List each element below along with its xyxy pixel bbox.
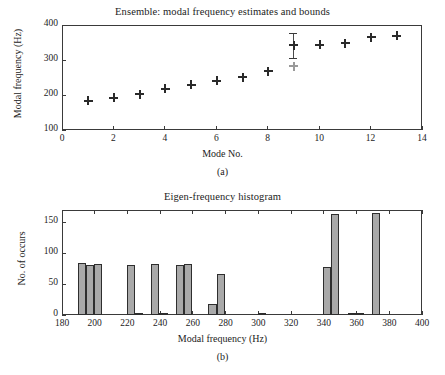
y-tick-label: 50 bbox=[22, 277, 58, 287]
x-tick-mark-top bbox=[225, 210, 226, 214]
x-tick-mark-top bbox=[94, 210, 95, 214]
x-tick-mark bbox=[389, 311, 390, 315]
x-tick-mark bbox=[62, 126, 63, 130]
x-tick-label: 320 bbox=[277, 318, 305, 328]
x-tick-mark bbox=[370, 126, 371, 130]
data-point-marker bbox=[84, 96, 93, 105]
histogram-bar bbox=[176, 265, 184, 315]
x-tick-label: 260 bbox=[179, 318, 207, 328]
x-tick-mark bbox=[113, 126, 114, 130]
x-tick-label: 240 bbox=[146, 318, 174, 328]
y-tick-label: 200 bbox=[18, 88, 58, 98]
marker-horizontal bbox=[315, 44, 324, 46]
y-tick-label: 100 bbox=[18, 123, 58, 133]
histogram-bar bbox=[151, 264, 159, 315]
y-tick-label: 300 bbox=[18, 53, 58, 63]
data-point-marker bbox=[392, 31, 401, 40]
x-tick-label: 6 bbox=[202, 133, 230, 143]
x-tick-mark bbox=[267, 126, 268, 130]
y-tick-mark bbox=[62, 253, 66, 254]
panel-a-ylabel: Modal frequency (Hz) bbox=[12, 19, 23, 129]
panel-b-xlabel: Modal frequency (Hz) bbox=[0, 333, 445, 344]
panel-a-xlabel: Mode No. bbox=[0, 148, 445, 159]
data-point-marker bbox=[367, 33, 376, 42]
x-tick-label: 4 bbox=[151, 133, 179, 143]
data-point-marker bbox=[161, 84, 170, 93]
x-tick-mark bbox=[164, 126, 165, 130]
histogram-bar bbox=[348, 313, 356, 315]
marker-horizontal bbox=[161, 88, 170, 90]
x-tick-mark-top bbox=[258, 210, 259, 214]
marker-horizontal bbox=[212, 80, 221, 82]
marker-horizontal bbox=[84, 100, 93, 102]
data-point-marker bbox=[187, 80, 196, 89]
x-tick-mark-top bbox=[127, 210, 128, 214]
y-tick-mark bbox=[62, 25, 66, 26]
x-tick-mark-top bbox=[160, 210, 161, 214]
x-tick-mark bbox=[291, 311, 292, 315]
x-tick-label: 180 bbox=[48, 318, 76, 328]
y-tick-label: 0 bbox=[22, 308, 58, 318]
x-tick-label: 400 bbox=[408, 318, 436, 328]
panel-b-tag: (b) bbox=[0, 351, 445, 362]
error-bar-cap-bottom bbox=[289, 58, 297, 59]
x-tick-mark-top bbox=[389, 210, 390, 214]
histogram-bar bbox=[184, 264, 192, 315]
panel-a: Ensemble: modal frequency estimates and … bbox=[0, 0, 445, 188]
histogram-bar bbox=[323, 267, 331, 315]
data-point-marker bbox=[135, 90, 144, 99]
x-tick-label: 340 bbox=[310, 318, 338, 328]
outlier-marker bbox=[289, 62, 298, 71]
x-tick-mark bbox=[422, 126, 423, 130]
histogram-bar bbox=[331, 214, 339, 315]
marker-horizontal bbox=[238, 76, 247, 78]
histogram-bar bbox=[258, 313, 266, 315]
panel-b-title: Eigen-frequency histogram bbox=[0, 191, 445, 202]
marker-horizontal bbox=[367, 36, 376, 38]
y-tick-mark bbox=[62, 60, 66, 61]
y-tick-mark bbox=[62, 95, 66, 96]
x-tick-label: 300 bbox=[244, 318, 272, 328]
histogram-bar bbox=[94, 264, 102, 315]
marker-horizontal bbox=[109, 97, 118, 99]
x-tick-mark bbox=[192, 311, 193, 315]
panel-b: Eigen-frequency histogram No. of occurs … bbox=[0, 187, 445, 375]
x-tick-mark-top bbox=[356, 210, 357, 214]
x-tick-mark-top bbox=[422, 210, 423, 214]
x-tick-label: 220 bbox=[113, 318, 141, 328]
x-tick-mark bbox=[319, 126, 320, 130]
y-tick-label: 400 bbox=[18, 18, 58, 28]
marker-horizontal bbox=[187, 84, 196, 86]
figure-root: Ensemble: modal frequency estimates and … bbox=[0, 0, 445, 375]
x-tick-label: 12 bbox=[357, 133, 385, 143]
marker-horizontal bbox=[341, 42, 350, 44]
data-point-marker bbox=[212, 76, 221, 85]
data-point-marker bbox=[264, 67, 273, 76]
x-tick-label: 14 bbox=[408, 133, 436, 143]
histogram-bar bbox=[356, 313, 364, 315]
data-point-marker bbox=[238, 73, 247, 82]
x-tick-label: 10 bbox=[305, 133, 333, 143]
x-tick-label: 280 bbox=[212, 318, 240, 328]
marker-horizontal bbox=[264, 70, 273, 72]
panel-b-ylabel: No. of occurs bbox=[16, 214, 27, 304]
panel-a-tag: (a) bbox=[0, 166, 445, 177]
histogram-bar bbox=[127, 265, 135, 315]
histogram-bar bbox=[86, 265, 94, 315]
x-tick-label: 380 bbox=[375, 318, 403, 328]
x-tick-mark bbox=[422, 311, 423, 315]
x-tick-mark-top bbox=[323, 210, 324, 214]
x-tick-label: 2 bbox=[99, 133, 127, 143]
data-point-marker bbox=[341, 39, 350, 48]
histogram-bar bbox=[208, 304, 216, 315]
y-tick-mark bbox=[62, 284, 66, 285]
x-tick-mark-top bbox=[62, 210, 63, 214]
y-tick-mark bbox=[62, 222, 66, 223]
x-tick-label: 200 bbox=[81, 318, 109, 328]
x-tick-mark-top bbox=[192, 210, 193, 214]
histogram-bar bbox=[217, 274, 225, 315]
x-tick-mark bbox=[225, 311, 226, 315]
marker-horizontal bbox=[289, 65, 298, 67]
histogram-bar bbox=[78, 263, 86, 316]
y-tick-label: 100 bbox=[22, 246, 58, 256]
